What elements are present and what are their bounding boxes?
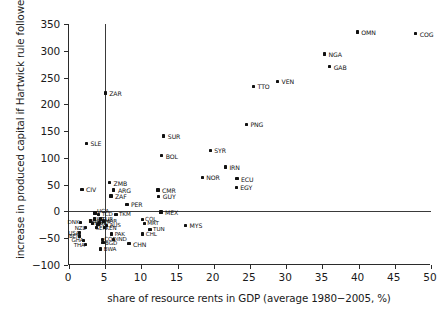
x-tick	[431, 265, 432, 269]
data-point	[323, 52, 326, 55]
data-point	[160, 154, 163, 157]
data-point-label: ZAR	[109, 91, 121, 97]
data-point-label: CHL	[146, 232, 157, 238]
data-point-label: CIV	[86, 187, 96, 193]
y-tick-label: −100	[20, 260, 60, 271]
data-point	[159, 210, 162, 213]
data-point-label: SLE	[90, 141, 101, 147]
data-point	[276, 80, 279, 83]
data-point-label: SEN	[96, 226, 107, 232]
data-point-label: IND	[117, 237, 127, 243]
x-tick	[178, 265, 179, 269]
data-point-label: MEX	[165, 210, 178, 216]
data-point	[209, 149, 212, 152]
x-tick	[69, 265, 70, 269]
y-tick-label: −50	[20, 233, 60, 244]
y-tick-label: 0	[20, 206, 60, 217]
x-tick	[250, 265, 251, 269]
data-point	[109, 194, 112, 197]
data-point	[99, 247, 102, 250]
data-point	[414, 32, 417, 35]
x-tick	[141, 265, 142, 269]
y-tick-label: 100	[20, 153, 60, 164]
data-point	[184, 224, 187, 227]
data-point-label: EGY	[240, 185, 252, 191]
y-tick	[64, 265, 68, 266]
data-point	[252, 85, 255, 88]
x-tick	[359, 265, 360, 269]
y-tick-label: 50	[20, 180, 60, 191]
data-point	[245, 123, 248, 126]
data-point-label: BOL	[166, 154, 178, 160]
data-point-label: NOR	[206, 175, 220, 181]
data-point-label: KEN	[105, 226, 116, 232]
x-tick-label: 40	[344, 272, 372, 283]
x-tick-label: 45	[380, 272, 408, 283]
data-point-label: CHN	[133, 242, 146, 248]
data-point-label: VEN	[282, 79, 294, 85]
x-tick-label: 20	[199, 272, 227, 283]
data-point	[328, 65, 331, 68]
data-point	[224, 165, 227, 168]
data-point	[108, 181, 111, 184]
x-tick-label: 50	[416, 272, 444, 283]
data-point	[114, 213, 117, 216]
data-point	[85, 142, 88, 145]
y-tick-label: 350	[20, 19, 60, 30]
data-point-label: GAB	[334, 65, 347, 71]
y-tick-label: 300	[20, 46, 60, 57]
plot-area: COGOMNNGAGABVENTTOZARPNGSURSLESYRBOLIRNN…	[68, 24, 430, 265]
data-point-label: TTO	[258, 84, 270, 90]
x-tick-label: 35	[307, 272, 335, 283]
data-point-label: SYR	[214, 148, 226, 154]
data-point	[162, 134, 165, 137]
data-point-label: THA	[74, 243, 85, 249]
data-point-label: PER	[131, 202, 143, 208]
x-tick-label: 10	[126, 272, 154, 283]
x-tick-label: 5	[90, 272, 118, 283]
data-point	[356, 30, 359, 33]
data-point-label: IRN	[229, 165, 239, 171]
x-tick-label: 30	[271, 272, 299, 283]
x-tick	[105, 265, 106, 269]
data-point	[80, 188, 83, 191]
data-point-label: ECU	[241, 177, 253, 183]
data-point	[112, 188, 115, 191]
data-point-label: COG	[420, 32, 434, 38]
data-point-label: MAR	[105, 219, 117, 225]
data-point-label: ZAF	[115, 194, 127, 200]
scatter-chart: increase in produced capital if Hartwick…	[0, 0, 444, 315]
data-point-label: GUY	[163, 194, 176, 200]
data-point-label: MYS	[190, 223, 203, 229]
data-point	[110, 232, 113, 235]
data-point	[143, 222, 146, 225]
y-tick-label: 200	[20, 99, 60, 110]
data-point	[141, 232, 144, 235]
data-point	[235, 177, 238, 180]
x-tick-label: 15	[163, 272, 191, 283]
y-tick-label: 250	[20, 73, 60, 84]
data-point	[125, 203, 128, 206]
data-point-label: SUR	[168, 134, 180, 140]
data-point	[156, 188, 159, 191]
data-point-label: NGA	[329, 52, 342, 58]
data-point-label: PNG	[250, 122, 263, 128]
data-point-label: ZMB	[114, 181, 128, 187]
data-point	[127, 242, 130, 245]
x-tick	[214, 265, 215, 269]
x-tick-label: 25	[235, 272, 263, 283]
data-point-label: OMN	[361, 30, 376, 36]
data-point	[157, 195, 160, 198]
y-tick-label: 150	[20, 126, 60, 137]
data-point	[201, 176, 204, 179]
x-tick	[286, 265, 287, 269]
data-point	[141, 218, 144, 221]
x-tick	[395, 265, 396, 269]
x-tick	[322, 265, 323, 269]
data-point-label: UGA	[97, 209, 109, 215]
x-tick-label: 0	[54, 272, 82, 283]
data-point	[235, 186, 238, 189]
data-point-label: BWA	[104, 247, 116, 253]
x-axis-title: share of resource rents in GDP (average …	[68, 292, 430, 304]
data-point-label: TKM	[119, 212, 131, 218]
